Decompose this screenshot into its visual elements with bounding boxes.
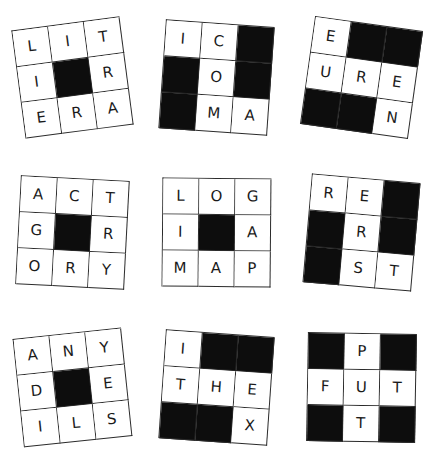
letter-cell[interactable]: S: [93, 400, 133, 440]
blocked-cell: [53, 368, 93, 408]
letter-cell[interactable]: T: [84, 17, 124, 57]
blocked-cell: [54, 214, 92, 252]
puzzle-grid-3[interactable]: EUREN: [289, 0, 434, 155]
puzzle-grid-1[interactable]: LITIRERA: [0, 0, 145, 155]
grid-frame: EUREN: [300, 16, 423, 139]
blocked-cell: [160, 402, 198, 440]
letter-cell[interactable]: R: [88, 53, 128, 93]
letter-cell[interactable]: I: [165, 20, 203, 58]
letter-cell[interactable]: O: [198, 59, 236, 97]
blocked-cell: [237, 335, 275, 373]
letter-cell[interactable]: T: [92, 180, 130, 218]
blocked-cell: [380, 334, 417, 371]
grid-frame: ICOMA: [159, 19, 275, 135]
grid-frame: ACTGRORY: [15, 175, 130, 290]
letter-cell[interactable]: Y: [88, 252, 126, 290]
letter-cell[interactable]: G: [236, 179, 272, 215]
letter-cell[interactable]: D: [17, 372, 57, 412]
letter-cell[interactable]: T: [162, 366, 200, 404]
letter-cell[interactable]: U: [344, 370, 381, 407]
letter-cell[interactable]: M: [163, 251, 199, 287]
letter-cell[interactable]: R: [90, 216, 128, 254]
letter-cell[interactable]: E: [346, 178, 385, 217]
blocked-cell: [379, 406, 416, 443]
letter-cell[interactable]: A: [199, 251, 235, 287]
blocked-cell: [378, 217, 417, 256]
letter-cell[interactable]: T: [380, 370, 417, 407]
letter-cell[interactable]: R: [310, 175, 349, 214]
blocked-cell: [53, 58, 93, 98]
letter-cell[interactable]: P: [344, 334, 381, 371]
letter-cell[interactable]: X: [232, 407, 270, 445]
blocked-cell: [199, 215, 235, 251]
letter-cell[interactable]: L: [12, 27, 52, 67]
letter-cell[interactable]: T: [343, 406, 380, 443]
grid-frame: RERST: [303, 173, 421, 291]
letter-cell[interactable]: I: [165, 330, 203, 368]
letter-cell[interactable]: S: [339, 249, 378, 288]
blocked-cell: [301, 88, 342, 129]
blocked-cell: [201, 333, 239, 371]
letter-cell[interactable]: F: [308, 369, 345, 406]
letter-cell[interactable]: N: [49, 332, 89, 372]
letter-cell[interactable]: R: [57, 93, 97, 133]
letter-cell[interactable]: Y: [85, 329, 125, 369]
blocked-cell: [382, 27, 423, 68]
letter-cell[interactable]: E: [89, 364, 129, 404]
letter-cell[interactable]: A: [232, 97, 270, 135]
letter-cell[interactable]: N: [372, 98, 413, 139]
letter-cell[interactable]: L: [57, 404, 97, 444]
letter-cell[interactable]: T: [375, 253, 414, 292]
letter-cell[interactable]: A: [20, 176, 58, 214]
blocked-cell: [162, 56, 200, 94]
letter-cell[interactable]: E: [311, 17, 352, 58]
letter-cell[interactable]: I: [21, 408, 61, 448]
letter-cell[interactable]: A: [14, 336, 54, 376]
grid-frame: LOGIAMAP: [162, 178, 272, 288]
letter-cell[interactable]: C: [56, 178, 94, 216]
blocked-cell: [160, 92, 198, 130]
letter-cell[interactable]: H: [198, 369, 236, 407]
letter-cell[interactable]: G: [18, 212, 56, 250]
puzzle-grid-6[interactable]: RERST: [289, 155, 434, 310]
letter-cell[interactable]: C: [201, 23, 239, 61]
blocked-cell: [308, 333, 345, 370]
letter-cell[interactable]: I: [17, 62, 57, 102]
letter-cell[interactable]: O: [16, 248, 54, 286]
letter-cell[interactable]: A: [235, 215, 271, 251]
puzzle-grid-5[interactable]: LOGIAMAP: [145, 155, 290, 310]
puzzle-grid-4[interactable]: ACTGRORY: [0, 155, 145, 310]
blocked-cell: [234, 61, 272, 99]
letter-cell[interactable]: E: [234, 371, 272, 409]
letter-cell[interactable]: A: [93, 89, 133, 129]
blocked-cell: [304, 246, 343, 285]
letter-cell[interactable]: R: [343, 214, 382, 253]
blocked-cell: [307, 210, 346, 249]
letter-cell[interactable]: O: [200, 179, 236, 215]
grid-frame: ANYDEILS: [12, 328, 132, 448]
puzzle-grid-2[interactable]: ICOMA: [145, 0, 290, 155]
blocked-cell: [347, 22, 388, 63]
letter-cell[interactable]: L: [164, 179, 200, 215]
blocked-cell: [382, 181, 421, 220]
blocked-cell: [237, 25, 275, 63]
letter-cell[interactable]: P: [235, 251, 271, 287]
letter-cell[interactable]: I: [163, 215, 199, 251]
letter-cell[interactable]: M: [196, 95, 234, 133]
letter-cell[interactable]: E: [377, 63, 418, 104]
puzzle-grid-9[interactable]: PFUTT: [289, 310, 434, 465]
grid-frame: PFUTT: [306, 332, 417, 443]
letter-cell[interactable]: I: [48, 22, 88, 62]
puzzle-grid-7[interactable]: ANYDEILS: [0, 310, 145, 465]
grid-frame: ITHEX: [159, 329, 275, 445]
puzzle-grid-8[interactable]: ITHEX: [145, 310, 290, 465]
letter-cell[interactable]: U: [306, 53, 347, 94]
letter-cell[interactable]: R: [342, 58, 383, 99]
blocked-cell: [307, 405, 344, 442]
letter-cell[interactable]: R: [52, 250, 90, 288]
blocked-cell: [337, 93, 378, 134]
grid-frame: LITIRERA: [11, 16, 133, 138]
blocked-cell: [196, 405, 234, 443]
puzzle-sheet: LITIRERAICOMAEURENACTGRORYLOGIAMAPRERSTA…: [0, 0, 434, 465]
letter-cell[interactable]: E: [22, 98, 62, 138]
